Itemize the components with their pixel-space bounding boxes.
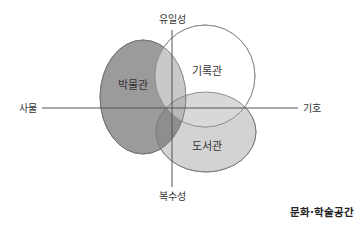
venn-diagram: 유일성 복수성 사물 기호 박물관 기록관 도서관 문화·학술공간	[0, 0, 361, 230]
axis-label-left: 사물	[19, 103, 37, 114]
set-label-library: 도서관	[192, 140, 222, 153]
axis-label-bottom: 복수성	[159, 191, 186, 202]
diagram-caption: 문화·학술공간	[290, 206, 354, 218]
set-label-archive: 기록관	[192, 65, 222, 78]
set-label-museum: 박물관	[118, 79, 148, 92]
axis-label-top: 유일성	[159, 14, 186, 25]
axis-label-right: 기호	[303, 103, 321, 114]
